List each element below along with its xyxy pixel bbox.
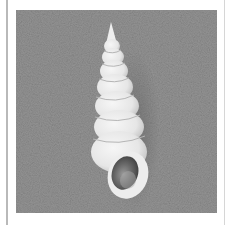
shell-photo: [16, 10, 217, 213]
frame-line-right: [224, 0, 225, 225]
shell-illustration: [16, 10, 217, 213]
frame-line-left: [6, 0, 8, 225]
